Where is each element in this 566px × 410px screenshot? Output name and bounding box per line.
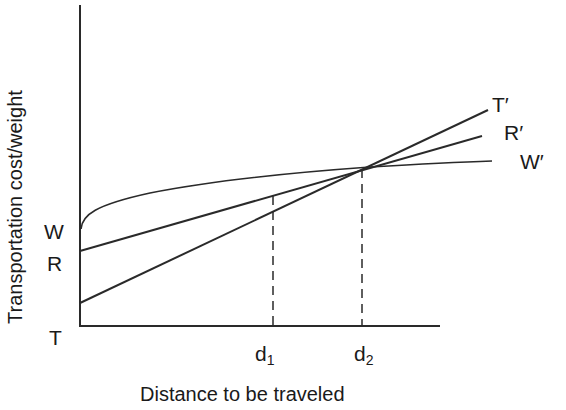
d1-subscript: 1 bbox=[267, 352, 275, 368]
d2-main: d bbox=[354, 342, 366, 365]
d2-subscript: 2 bbox=[366, 352, 374, 368]
w-curve bbox=[81, 161, 492, 229]
x-axis-title: Distance to be traveled bbox=[140, 383, 345, 406]
r-intercept-label: R bbox=[47, 253, 62, 274]
t-intercept-label: T bbox=[49, 327, 62, 348]
w-prime-label: W′ bbox=[520, 151, 544, 172]
plot-area bbox=[0, 0, 566, 410]
r-prime-label: R′ bbox=[504, 122, 523, 143]
w-intercept-label: W bbox=[44, 221, 64, 242]
d1-label: d1 bbox=[255, 343, 274, 367]
t-line bbox=[80, 110, 488, 303]
transport-cost-diagram: W R T T′ R′ W′ d1 d2 Distance to be trav… bbox=[0, 0, 566, 410]
t-prime-label: T′ bbox=[492, 94, 509, 115]
y-axis-title: Transportation cost/weight bbox=[4, 90, 27, 324]
d1-main: d bbox=[255, 342, 267, 365]
d2-label: d2 bbox=[354, 343, 373, 367]
r-line bbox=[80, 136, 482, 251]
